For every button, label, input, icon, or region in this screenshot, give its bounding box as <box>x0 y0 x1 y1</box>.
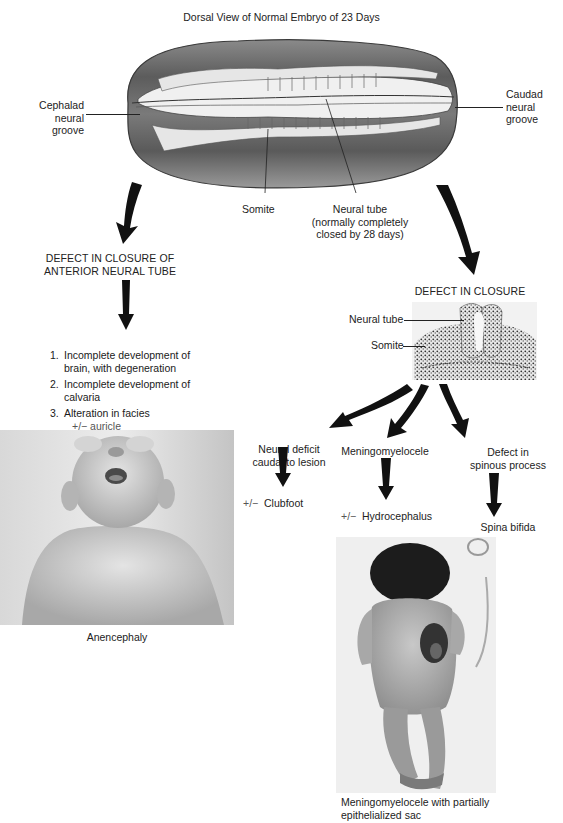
caudad-leader-line <box>455 107 503 108</box>
somite-label: Somite <box>242 203 275 216</box>
histology-somite-label: Somite <box>371 339 404 352</box>
figure-title: Dorsal View of Normal Embryo of 23 Days <box>0 11 563 24</box>
closure-defect-heading: DEFECT IN CLOSURE <box>395 285 545 298</box>
meningomyelocele-caption: Meningomyelocele with partially epitheli… <box>341 796 489 821</box>
arrow-to-closure-defect-icon <box>434 183 484 277</box>
embryo-illustration <box>118 33 460 193</box>
outcome-hydrocephalus: +/− Hydrocephalus <box>341 510 432 523</box>
meningomyelocele-photo <box>336 537 496 793</box>
list-item: 2. Incomplete development of calvaria <box>50 378 190 403</box>
anterior-defect-heading: DEFECT IN CLOSURE OF ANTERIOR NEURAL TUB… <box>20 252 200 277</box>
outcome-spina-bifida: Spina bifida <box>458 521 558 534</box>
cephalad-label: Cephalad neural groove <box>20 99 84 137</box>
list-item: 1. Incomplete development of brain, with… <box>50 349 190 374</box>
arrow-to-anterior-defect-icon <box>108 180 148 246</box>
down-arrow-icon <box>378 458 394 500</box>
list-item: 3. Alteration in facies +/− auricle <box>50 407 190 432</box>
anencephaly-photo <box>0 430 234 625</box>
somite-leader-line <box>403 346 425 347</box>
outcome-spinous-defect: Defect in spinous process <box>458 446 558 471</box>
neural-tube-leader-line <box>404 320 464 321</box>
anencephaly-caption: Anencephaly <box>0 631 234 644</box>
cephalad-leader-line <box>86 114 140 115</box>
caudad-label: Caudad neural groove <box>506 88 543 126</box>
down-arrow-icon <box>118 280 134 330</box>
outcome-meningomyelocele: Meningomyelocele <box>340 445 430 458</box>
diverging-arrows-icon <box>325 380 485 440</box>
neural-tube-label: Neural tube (normally completely closed … <box>310 203 410 241</box>
embryo-drawing <box>118 33 460 193</box>
anterior-defect-list: 1. Incomplete development of brain, with… <box>50 349 190 436</box>
down-arrow-icon <box>486 473 502 517</box>
histology-neural-tube-label: Neural tube <box>349 313 403 326</box>
down-arrow-icon <box>275 447 291 487</box>
outcome-clubfoot: +/− Clubfoot <box>243 497 303 510</box>
neural-tube-histology-image <box>412 302 537 380</box>
